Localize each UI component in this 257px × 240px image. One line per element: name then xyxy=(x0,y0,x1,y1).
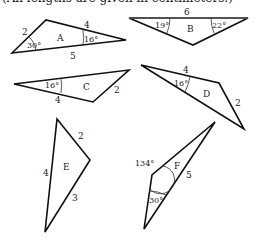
side-label: 3 xyxy=(72,193,78,203)
triangle-a: 2 4 5 30° 16° A xyxy=(12,20,126,61)
side-label: 5 xyxy=(70,51,76,61)
angle-label: 30° xyxy=(149,196,163,205)
angle-label: 16° xyxy=(84,35,98,44)
triangle-name: B xyxy=(187,24,194,34)
triangle-name: F xyxy=(174,161,180,171)
triangle-c: 16° 4 2 C xyxy=(14,70,129,105)
side-label: 2 xyxy=(78,131,84,141)
side-label: 5 xyxy=(186,170,192,180)
triangle-name: C xyxy=(83,82,90,92)
side-label: 4 xyxy=(183,65,189,75)
side-label: 4 xyxy=(43,168,49,178)
side-label: 2 xyxy=(22,27,28,37)
triangle-name: E xyxy=(63,162,70,172)
triangle-f: 134° 30° 5 F xyxy=(135,122,215,229)
angle-label: 19° xyxy=(155,21,169,30)
angle-label: 16° xyxy=(45,81,59,90)
side-label: 4 xyxy=(55,95,61,105)
triangle-d: 4 2 16° D xyxy=(141,65,244,129)
triangles-diagram: 2 4 5 30° 16° A 6 19° 22° B 16° 4 2 C 4 … xyxy=(0,0,257,240)
angle-label: 22° xyxy=(212,21,226,30)
side-label: 6 xyxy=(184,7,190,17)
side-label: 2 xyxy=(114,85,120,95)
side-label: 2 xyxy=(235,98,241,108)
triangle-name: A xyxy=(56,33,64,43)
side-label: 4 xyxy=(84,20,90,30)
angle-label: 16° xyxy=(174,79,188,88)
triangle-e: 2 4 3 E xyxy=(43,119,90,232)
triangle-name: D xyxy=(203,89,210,99)
angle-label: 30° xyxy=(27,41,41,50)
angle-label: 134° xyxy=(135,159,154,168)
triangle-b: 6 19° 22° B xyxy=(129,7,248,45)
